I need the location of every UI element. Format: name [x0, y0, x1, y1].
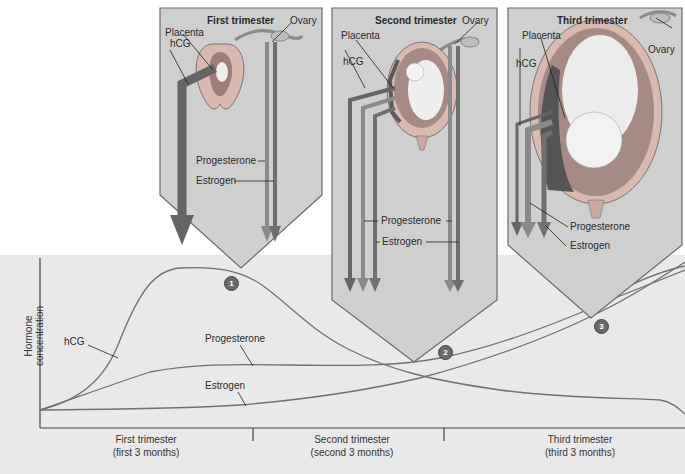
panel-title-second-trimester: Second trimester — [375, 15, 457, 27]
x-section-third-trimester: Third trimester(third 3 months) — [500, 433, 660, 459]
ovary-label: Ovary — [648, 44, 675, 56]
hcg-label: hCG — [343, 56, 364, 68]
placenta-label: Placenta — [522, 30, 561, 42]
hcg-label: hCG — [170, 38, 191, 50]
progesterone-curve-label: Progesterone — [205, 333, 265, 345]
progesterone-label: Progesterone — [381, 215, 441, 227]
hcg-curve-label: hCG — [64, 336, 85, 348]
progesterone-label: Progesterone — [196, 155, 256, 167]
diagram-canvas — [0, 0, 685, 474]
y-axis-label: Hormone concentration — [23, 300, 45, 372]
ovary-label: Ovary — [290, 15, 317, 27]
ovary-label: Ovary — [462, 15, 489, 27]
progesterone-label: Progesterone — [570, 221, 630, 233]
panel-title-first-trimester: First trimester — [207, 15, 274, 27]
x-section-second-trimester: Second trimester(second 3 months) — [272, 433, 432, 459]
x-section-first-trimester: First trimester(first 3 months) — [66, 433, 226, 459]
marker-1: 1 — [224, 276, 239, 291]
placenta-label: Placenta — [341, 30, 380, 42]
estrogen-curve-label: Estrogen — [205, 380, 245, 392]
marker-3: 3 — [594, 319, 609, 334]
hcg-label: hCG — [516, 58, 537, 70]
estrogen-label: Estrogen — [382, 236, 422, 248]
estrogen-label: Estrogen — [570, 240, 610, 252]
marker-2: 2 — [438, 345, 453, 360]
panel-title-third-trimester: Third trimester — [557, 15, 628, 27]
estrogen-label: Estrogen — [196, 175, 236, 187]
